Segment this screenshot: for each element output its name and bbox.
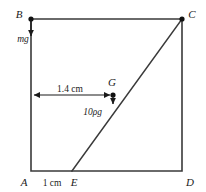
- diagram-container: B C A D E G mg 10ρg 1.4 cm 1 cm: [0, 0, 206, 192]
- label-point-g: G: [108, 76, 116, 88]
- label-weight-force: mg: [17, 34, 29, 44]
- label-point-b: B: [16, 8, 23, 20]
- label-horizontal-dimension: 1.4 cm: [57, 84, 83, 94]
- mechanics-figure: B C A D E G mg 10ρg 1.4 cm 1 cm: [0, 0, 206, 192]
- point-c-dot: [179, 16, 184, 21]
- label-point-a: A: [20, 176, 28, 188]
- label-point-d: D: [185, 176, 194, 188]
- label-point-e: E: [70, 176, 78, 188]
- label-base-dimension: 1 cm: [43, 178, 62, 188]
- label-point-c: C: [188, 8, 196, 20]
- label-buoyancy-force: 10ρg: [83, 107, 102, 117]
